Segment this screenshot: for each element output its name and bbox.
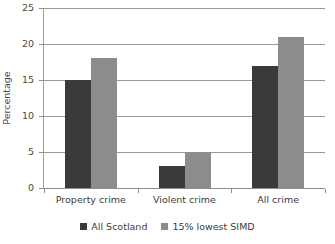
- x-axis-tick: [138, 189, 139, 193]
- x-axis-tick-label: Violent crime: [138, 195, 232, 205]
- bar: [278, 37, 304, 188]
- chart-legend: All Scotland15% lowest SIMD: [0, 222, 335, 232]
- gridline: [44, 188, 325, 189]
- bar-chart: Percentage 0510152025 Property crimeViol…: [0, 0, 335, 244]
- x-axis-tick: [231, 189, 232, 193]
- legend-swatch-icon: [80, 223, 87, 230]
- y-axis-tick-label: 20: [10, 39, 34, 49]
- y-axis-tick-label: 25: [10, 3, 34, 13]
- legend-label: 15% lowest SIMD: [172, 222, 254, 232]
- x-axis-tick: [325, 189, 326, 193]
- legend-label: All Scotland: [91, 222, 147, 232]
- y-axis-tick-label: 15: [10, 75, 34, 85]
- gridline: [44, 8, 325, 9]
- y-axis-tick-label: 5: [10, 147, 34, 157]
- x-axis-tick: [44, 189, 45, 193]
- legend-swatch-icon: [161, 223, 168, 230]
- plot-area: [44, 8, 325, 188]
- bar: [65, 80, 91, 188]
- legend-entry: All Scotland: [80, 222, 147, 232]
- y-axis-tick-label: 0: [10, 183, 34, 193]
- y-axis-tick-label: 10: [10, 111, 34, 121]
- x-axis-tick-label: Property crime: [44, 195, 138, 205]
- y-axis-title-container: Percentage: [0, 0, 14, 196]
- bar: [159, 166, 185, 188]
- bar: [91, 58, 117, 188]
- legend-entry: 15% lowest SIMD: [161, 222, 254, 232]
- bar: [185, 152, 211, 188]
- x-axis-tick-label: All crime: [231, 195, 325, 205]
- bar: [252, 66, 278, 188]
